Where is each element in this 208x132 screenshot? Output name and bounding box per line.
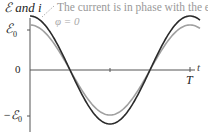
period-label: T (186, 74, 193, 86)
e0-label: ℰ0 (5, 22, 17, 39)
chart-canvas (0, 0, 208, 132)
t-axis-label: t (197, 62, 200, 73)
phase-label: φ = 0 (55, 16, 80, 27)
y-axis-label: ℰ and i (4, 1, 42, 14)
neg-e0-label: −ℰ0 (3, 109, 22, 124)
annotation-pointer (42, 6, 54, 17)
zero-label: 0 (15, 64, 21, 75)
annotation-text: The current is in phase with the emf. (57, 2, 208, 14)
